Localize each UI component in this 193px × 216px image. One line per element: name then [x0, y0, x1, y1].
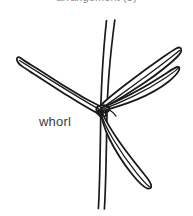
leaf-upper-left [17, 57, 106, 116]
leaf-upper-left-midrib [20, 61, 105, 113]
whorl-label: whorl [39, 114, 71, 129]
whorl-line-drawing [0, 0, 193, 216]
figure-container: arrangement (3) [0, 0, 193, 216]
node-crease-right [110, 110, 117, 116]
